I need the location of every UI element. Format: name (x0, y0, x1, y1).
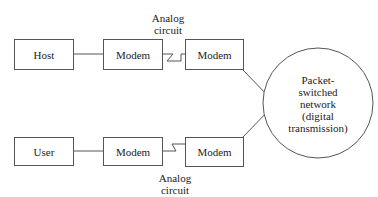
top-modem-b-box: Modem (185, 39, 244, 70)
bottom-modem-a-box: Modem (103, 137, 163, 166)
host-box: Host (14, 39, 74, 70)
user-box: User (14, 137, 74, 166)
network-label: Packet- switched network (digital transm… (268, 74, 368, 134)
top-circuit-label: Analog circuit (145, 12, 191, 36)
bottom-circuit-label: Analog circuit (152, 172, 198, 196)
bottom-modem-b-box: Modem (185, 137, 244, 167)
top-modem-a-box: Modem (103, 39, 163, 70)
